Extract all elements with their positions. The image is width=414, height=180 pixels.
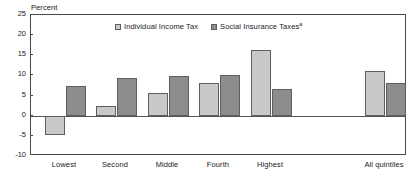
legend-label: Social Insurance Taxesa [220,22,302,31]
y-axis-tick-mark [30,95,33,96]
x-axis-label: Highest [257,160,283,169]
bar-chart: Percent 2520151050-5-10 Individual Incom… [0,0,414,180]
legend-swatch-icon [211,24,217,30]
y-axis-tick-label: 5 [5,90,26,99]
y-axis-tick-label: 20 [5,29,26,38]
y-axis: 2520151050-5-10 [30,14,406,155]
legend-footnote-marker: a [299,21,302,27]
y-axis-tick-label: 10 [5,69,26,78]
y-axis-tick-mark [30,54,33,55]
y-axis-tick-label: 0 [5,110,26,119]
x-axis-label: All quintiles [364,160,403,169]
y-axis-tick-mark [30,115,33,116]
chart-legend: Individual Income TaxSocial Insurance Ta… [115,22,302,31]
y-axis-tick-label: -5 [5,130,26,139]
y-axis-tick-label: 25 [5,9,26,18]
y-axis-tick-mark [30,135,33,136]
y-axis-tick-mark [30,74,33,75]
x-axis-label: Second [102,160,128,169]
y-axis-tick-label: -10 [5,150,26,159]
x-axis-labels: LowestSecondMiddleFourthHighestAll quint… [30,160,406,172]
legend-item: Individual Income Tax [115,22,198,31]
legend-label: Individual Income Tax [124,22,198,31]
legend-swatch-icon [115,24,121,30]
y-axis-title: Percent [31,3,58,12]
x-axis-label: Fourth [207,160,229,169]
legend-item: Social Insurance Taxesa [211,22,302,31]
y-axis-tick-label: 15 [5,49,26,58]
y-axis-tick-mark [30,34,33,35]
x-axis-label: Lowest [52,160,76,169]
x-axis-label: Middle [156,160,179,169]
